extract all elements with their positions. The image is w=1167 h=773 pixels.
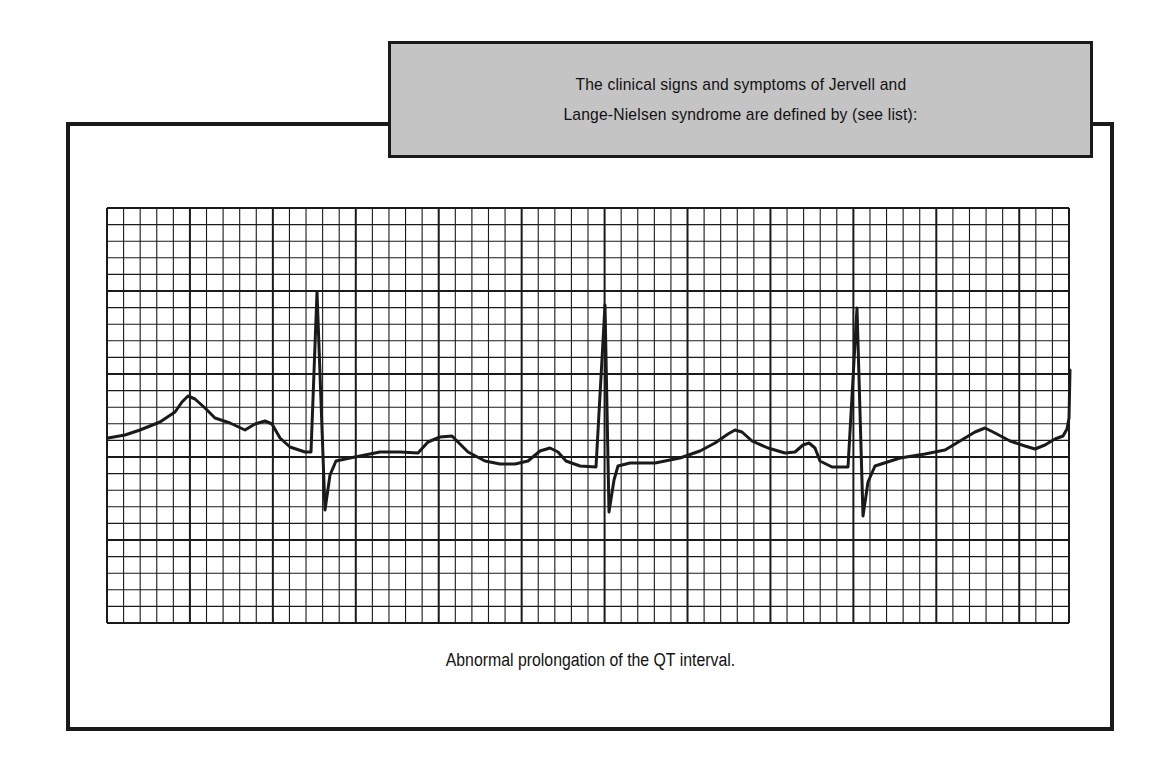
header-box: The clinical signs and symptoms of Jerve…	[388, 41, 1093, 158]
ecg-trace	[108, 292, 1070, 516]
caption-text: Abnormal prolongation of the QT interval…	[446, 650, 735, 671]
header-line-1: The clinical signs and symptoms of Jerve…	[575, 70, 906, 100]
ecg-grid	[107, 208, 1069, 623]
header-line-2: Lange-Nielsen syndrome are defined by (s…	[563, 100, 917, 130]
figure-caption: Abnormal prolongation of the QT interval…	[0, 650, 1167, 671]
